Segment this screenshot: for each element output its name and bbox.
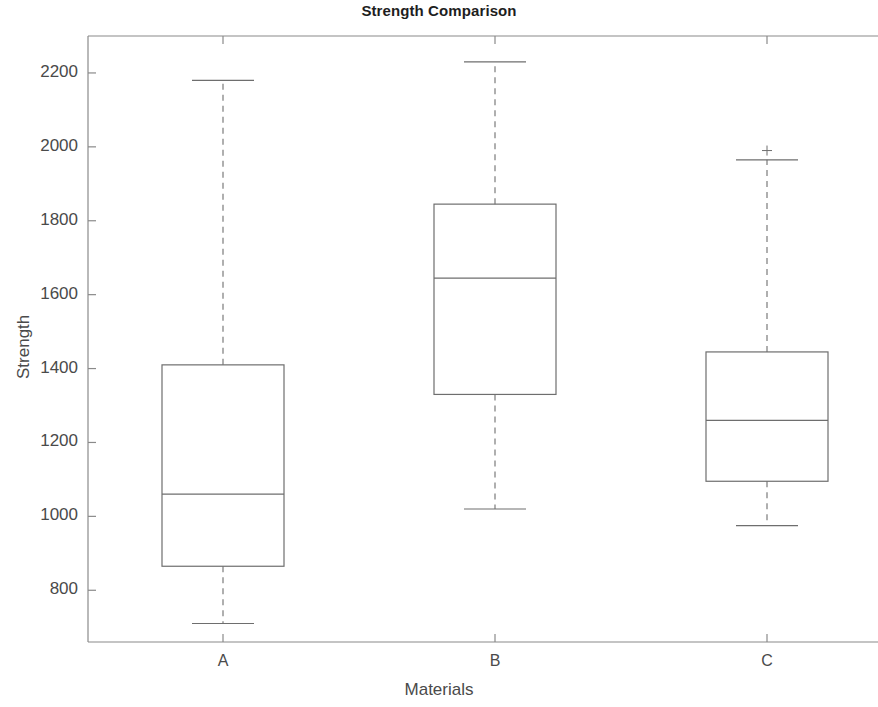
figure-canvas: Strength Comparison 80010001200140016001… [0,0,878,707]
x-tick-label: C [727,652,807,670]
y-tick-label: 1600 [40,284,78,304]
box-plot-series [162,62,828,624]
y-tick-label: 1800 [40,210,78,230]
x-tick-label: A [183,652,263,670]
axis-ticks [88,36,767,642]
box-plot-svg [0,0,878,707]
y-tick-label: 1400 [40,358,78,378]
box-plot-group-C [706,146,828,526]
box-iqr [706,352,828,481]
y-tick-label: 800 [50,579,78,599]
box-iqr [162,365,284,566]
y-tick-label: 2000 [40,136,78,156]
box-plot-group-A [162,80,284,623]
axes-frame [88,36,878,642]
box-iqr [434,204,556,394]
y-tick-label: 1000 [40,505,78,525]
x-axis-label: Materials [0,680,878,700]
y-tick-label: 2200 [40,62,78,82]
box-plot-group-B [434,62,556,509]
y-tick-label: 1200 [40,431,78,451]
x-tick-label: B [455,652,535,670]
y-axis-label: Strength [14,315,34,379]
